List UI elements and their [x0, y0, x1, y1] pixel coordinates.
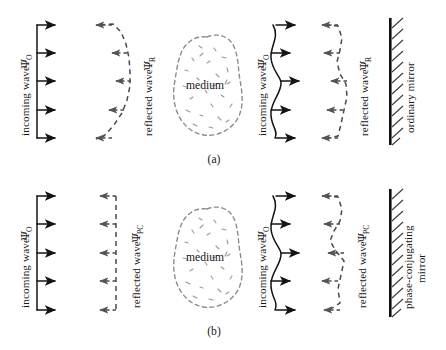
label-text: reflected wave: [358, 69, 370, 136]
pc-mirror-label-line1: phase-conjugating: [402, 225, 414, 309]
label-b-left-incoming: incoming wave Ψ O: [18, 226, 34, 308]
wavefront-distorted-a-left-reflected: [96, 24, 130, 139]
label-a-right-reflected: reflected wave Ψ R: [357, 56, 373, 136]
label-text: reflected wave: [356, 241, 368, 308]
label-b-left-reflected: reflected wave Ψ PC: [129, 225, 145, 308]
group-b-left-incoming: incoming wave Ψ O: [18, 196, 55, 310]
label-text: incoming wave: [19, 238, 31, 308]
ordinary-mirror: ordinary mirror: [389, 18, 416, 145]
group-a-left-reflected: reflected wave Ψ R: [96, 24, 157, 139]
label-text: incoming wave: [19, 66, 31, 136]
medium-blob-b: medium: [174, 207, 242, 307]
group-b-left-reflected: reflected wave Ψ PC: [100, 196, 145, 310]
panel-a: incoming wave Ψ O reflected wave Ψ R: [18, 18, 416, 166]
mirror-surface-a: [389, 18, 392, 145]
psi-subscript: O: [25, 54, 34, 60]
ray-bundle-a-right-incoming: [271, 25, 299, 138]
psi-subscript: PC: [136, 225, 145, 234]
ray-bundle-b-right-incoming: [271, 196, 299, 310]
ray-bundle-b-left-incoming: [37, 196, 55, 310]
psi-subscript: O: [262, 226, 271, 232]
label-text: reflected wave: [130, 241, 142, 308]
label-b-right-incoming: incoming wave Ψ O: [255, 226, 271, 308]
medium-blob-a: medium: [174, 35, 242, 135]
wavefront-distorted-a-right-incoming: [271, 25, 281, 138]
group-a-left-incoming: incoming wave Ψ O: [18, 25, 55, 138]
group-b-right-incoming: incoming wave Ψ O: [255, 196, 299, 310]
mirror-hatching-a: [392, 18, 403, 145]
label-b-right-reflected: reflected wave Ψ PC: [355, 225, 371, 308]
figure-root: incoming wave Ψ O reflected wave Ψ R: [0, 0, 446, 350]
psi-subscript: R: [364, 56, 373, 62]
group-a-right-reflected: reflected wave Ψ R: [322, 25, 373, 138]
psi-subscript: O: [25, 226, 34, 232]
phase-conjugation-diagram: incoming wave Ψ O reflected wave Ψ R: [0, 0, 446, 350]
ray-bundle-a-left-reflected: [96, 25, 131, 138]
psi-subscript: R: [148, 56, 157, 62]
caption-b: (b): [207, 325, 221, 338]
ordinary-mirror-label: ordinary mirror: [404, 62, 416, 133]
label-text: incoming wave: [256, 66, 268, 136]
label-text: reflected wave: [142, 69, 154, 136]
mirror-surface-b: [389, 189, 392, 317]
ray-bundle-a-left-incoming: [37, 25, 55, 138]
label-text: incoming wave: [256, 238, 268, 308]
ray-bundle-b-left-reflected: [100, 196, 116, 310]
label-a-left-reflected: reflected wave Ψ R: [141, 56, 157, 136]
caption-a: (a): [208, 153, 221, 166]
group-a-right-incoming: incoming wave Ψ O: [255, 25, 299, 138]
panel-b: incoming wave Ψ O reflected wave Ψ PC: [18, 189, 427, 338]
phase-conjugating-mirror: phase-conjugating mirror: [389, 189, 427, 317]
medium-label-b: medium: [186, 251, 224, 264]
medium-label-a: medium: [186, 79, 224, 92]
psi-subscript: O: [262, 54, 271, 60]
label-a-right-incoming: incoming wave Ψ O: [255, 54, 271, 136]
ray-bundle-a-right-reflected: [322, 25, 347, 138]
wavefront-distorted-b-right-incoming: [271, 196, 281, 310]
psi-subscript: PC: [362, 225, 371, 234]
group-b-right-reflected: reflected wave Ψ PC: [322, 196, 371, 310]
pc-mirror-label-line2: mirror: [415, 254, 427, 283]
label-a-left-incoming: incoming wave Ψ O: [18, 54, 34, 136]
